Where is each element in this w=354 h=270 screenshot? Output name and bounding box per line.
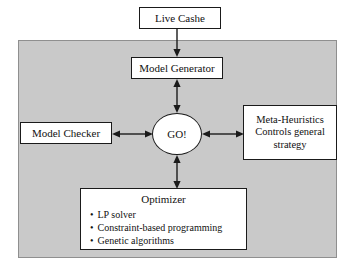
connector-model-checker-to-go xyxy=(112,129,153,139)
connector-go-to-optimizer xyxy=(172,155,182,189)
diagram-canvas: Live Cashe Model Generator Model Checker… xyxy=(0,0,354,270)
list-item: LP solver xyxy=(90,208,246,221)
node-meta-heuristics-line3: strategy xyxy=(273,139,306,151)
node-model-checker-label: Model Checker xyxy=(32,127,100,140)
node-optimizer: Optimizer LP solver Constraint-based pro… xyxy=(80,188,247,250)
node-go: GO! xyxy=(152,113,202,155)
node-model-generator-label: Model Generator xyxy=(139,62,214,75)
node-live-cashe: Live Cashe xyxy=(139,7,221,29)
connector-model-generator-to-go xyxy=(172,79,182,113)
node-live-cashe-label: Live Cashe xyxy=(155,12,205,25)
node-meta-heuristics: Meta-Heuristics Controls general strateg… xyxy=(243,105,337,160)
node-model-generator: Model Generator xyxy=(131,57,223,79)
node-optimizer-list: LP solver Constraint-based programming G… xyxy=(81,208,246,248)
node-model-checker: Model Checker xyxy=(20,122,112,144)
list-item: Constraint-based programming xyxy=(90,221,246,234)
list-item: Genetic algorithms xyxy=(90,234,246,247)
node-optimizer-title: Optimizer xyxy=(81,193,246,206)
node-meta-heuristics-line1: Meta-Heuristics xyxy=(256,114,324,126)
connector-go-to-meta-heuristics xyxy=(202,129,244,139)
connector-live-cashe-to-model-generator xyxy=(172,29,182,57)
node-meta-heuristics-line2: Controls general xyxy=(255,126,325,138)
node-go-label: GO! xyxy=(167,128,187,140)
